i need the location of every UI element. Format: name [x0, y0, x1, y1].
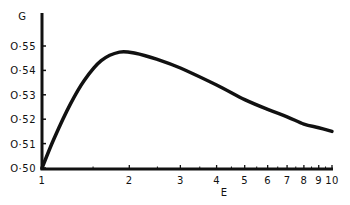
y-tick-label: O·55 [10, 41, 36, 52]
x-tick-label: 10 [325, 175, 339, 186]
x-tick-label: 4 [213, 175, 220, 186]
y-tick-label: O·53 [10, 90, 36, 101]
x-tick-label: 5 [241, 175, 248, 186]
x-tick-label: 2 [126, 175, 133, 186]
y-axis: O·50O·51O·52O·53O·54O·55 [10, 13, 46, 174]
y-tick-label: O·54 [10, 65, 36, 76]
chart: O·50O·51O·52O·53O·54O·55 12345678910 G E [0, 0, 350, 205]
x-axis-title: E [221, 187, 227, 198]
x-tick-label: 7 [284, 175, 291, 186]
x-tick-label: 8 [300, 175, 307, 186]
x-axis: 12345678910 [39, 165, 339, 186]
y-tick-label: O·52 [10, 114, 36, 125]
data-line [42, 52, 332, 168]
x-tick-label: 3 [177, 175, 184, 186]
y-tick-label: O·51 [10, 139, 36, 150]
y-tick-label: O·50 [10, 163, 36, 174]
x-tick-label: 1 [39, 175, 46, 186]
x-tick-label: 9 [315, 175, 322, 186]
x-tick-label: 6 [264, 175, 271, 186]
y-axis-title: G [18, 11, 26, 22]
